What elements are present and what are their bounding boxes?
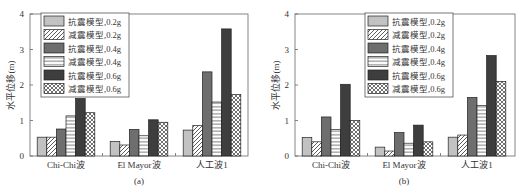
legend-label: 减震模型,0.2g <box>392 30 446 40</box>
legend-swatch <box>368 57 388 67</box>
y-tick-label: 1 <box>20 116 25 126</box>
y-axis-label: 水平位移(m) <box>270 61 281 110</box>
bar <box>350 121 360 157</box>
x-category-label: Chi-Chi波 <box>47 159 85 170</box>
y-tick-label: 3 <box>20 45 25 55</box>
y-tick-label: 0 <box>285 151 290 161</box>
x-axis: Chi-Chi波 El Mayor波 人工波1 <box>47 159 228 170</box>
chart-panel-b: 0 1 2 3 4 水平位移(m) Chi-Chi波 El Mayor波 人工波… <box>270 9 515 186</box>
y-axis-label: 水平位移(m) <box>5 61 16 110</box>
y-tick-label: 4 <box>285 9 290 19</box>
legend-label: 减震模型,0.4g <box>68 57 122 67</box>
bar <box>139 136 149 156</box>
bar <box>321 117 331 156</box>
legend-swatch <box>368 30 388 40</box>
x-category-label: El Mayor波 <box>117 159 160 170</box>
legend-swatch <box>44 70 64 80</box>
bar <box>302 138 312 156</box>
bar <box>158 122 168 156</box>
bar <box>448 137 458 156</box>
legend-label: 抗震模型,0.6g <box>68 71 122 81</box>
bar <box>423 142 433 156</box>
legend-swatch <box>44 30 64 40</box>
legend-swatch <box>368 16 388 26</box>
bar <box>183 130 193 156</box>
bar <box>414 125 424 156</box>
bar <box>202 72 212 156</box>
y-axis: 0 1 2 3 4 <box>285 9 290 161</box>
bar <box>477 106 487 156</box>
legend-label: 抗震模型,0.4g <box>392 44 446 54</box>
y-tick-label: 2 <box>20 80 25 90</box>
legend-swatch <box>368 84 388 94</box>
legend-swatch <box>368 70 388 80</box>
bar <box>37 137 47 156</box>
bar <box>312 142 322 156</box>
bar <box>394 133 404 156</box>
bar <box>85 113 95 156</box>
bar <box>404 143 414 156</box>
y-tick-label: 1 <box>285 116 290 126</box>
legend-swatch <box>44 84 64 94</box>
bar <box>385 151 395 156</box>
legend: 抗震模型,0.2g减震模型,0.2g抗震模型,0.4g减震模型,0.4g抗震模型… <box>41 13 129 97</box>
legend: 抗震模型,0.2g减震模型,0.2g抗震模型,0.4g减震模型,0.4g抗震模型… <box>365 13 453 97</box>
legend-label: 减震模型,0.6g <box>392 84 446 94</box>
figure-caption: (a) <box>134 176 144 186</box>
legend-label: 抗震模型,0.6g <box>392 71 446 81</box>
bar <box>149 120 159 156</box>
legend-swatch <box>44 57 64 67</box>
bar <box>66 116 76 156</box>
legend-label: 抗震模型,0.4g <box>68 44 122 54</box>
bar <box>56 129 66 156</box>
x-category-label: El Mayor波 <box>382 159 425 170</box>
bar <box>467 97 477 156</box>
bar <box>110 141 120 156</box>
y-axis: 0 1 2 3 4 <box>20 9 25 161</box>
legend-swatch <box>44 43 64 53</box>
figure: 0 1 2 3 4 水平位移(m) Chi-Chi波 El Mayor波 人工波… <box>0 0 521 194</box>
x-category-label: 人工波1 <box>196 159 228 170</box>
bar <box>76 98 86 156</box>
chart-panel-a: 0 1 2 3 4 水平位移(m) Chi-Chi波 El Mayor波 人工波… <box>5 9 248 186</box>
bar <box>129 129 139 156</box>
legend-swatch <box>368 43 388 53</box>
legend-label: 抗震模型,0.2g <box>392 17 446 27</box>
y-tick-label: 4 <box>20 9 25 19</box>
bar <box>47 137 57 156</box>
legend-label: 减震模型,0.2g <box>68 30 122 40</box>
bar <box>458 135 468 156</box>
bar <box>212 102 222 156</box>
y-tick-label: 3 <box>285 45 290 55</box>
bar <box>120 145 130 156</box>
y-tick-label: 0 <box>20 151 25 161</box>
legend-label: 减震模型,0.6g <box>68 84 122 94</box>
bar <box>231 95 241 156</box>
x-category-label: Chi-Chi波 <box>312 159 350 170</box>
bar <box>222 29 232 156</box>
legend-label: 减震模型,0.4g <box>392 57 446 67</box>
y-tick-label: 2 <box>285 80 290 90</box>
legend-label: 抗震模型,0.2g <box>68 17 122 27</box>
figure-caption: (b) <box>399 176 410 186</box>
legend-swatch <box>44 16 64 26</box>
x-category-label: 人工波1 <box>461 159 493 170</box>
bar <box>487 56 497 156</box>
bar <box>193 125 203 156</box>
bar <box>341 84 351 156</box>
bar <box>375 147 385 156</box>
x-axis: Chi-Chi波 El Mayor波 人工波1 <box>312 159 493 170</box>
bar <box>496 81 506 156</box>
bar <box>331 129 341 156</box>
